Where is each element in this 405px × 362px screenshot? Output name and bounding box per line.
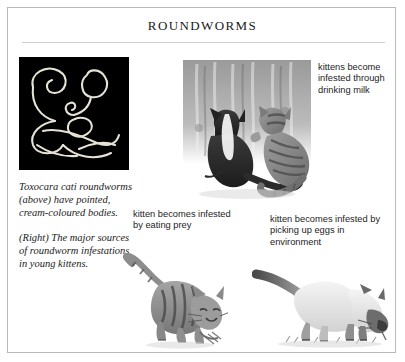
two-kittens-nursing-illustration xyxy=(175,52,320,202)
toxocara-cati-roundworms-photo xyxy=(19,57,129,170)
siamese-cat-sniffing-ground-illustration xyxy=(252,258,392,350)
label-drinking-milk: kittens become infested through drinking… xyxy=(318,62,398,96)
caption-paragraph-1: Toxocara cati roundworms (above) have po… xyxy=(19,180,139,220)
roundworms-page: ROUNDWORMS Toxocara cati roundworms (abo… xyxy=(0,0,405,362)
label-eggs-in-environment: kitten becomes infested by picking up eg… xyxy=(270,214,395,248)
page-title: ROUNDWORMS xyxy=(0,18,405,34)
title-divider xyxy=(22,42,385,43)
tabby-cat-eating-prey-illustration xyxy=(118,252,228,350)
label-eating-prey: kitten becomes infested by eating prey xyxy=(133,209,233,232)
